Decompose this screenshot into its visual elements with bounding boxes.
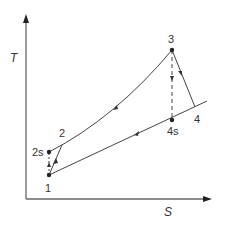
process-1-2s-arrow-icon	[47, 162, 51, 167]
point-1	[47, 173, 51, 177]
point-2-label: 2	[59, 127, 65, 139]
point-1-label: 1	[45, 182, 51, 194]
point-4-label: 4	[194, 113, 200, 125]
y-axis-label: T	[10, 51, 19, 65]
point-4s	[170, 118, 174, 122]
point-4s-label: 4s	[167, 125, 179, 137]
process-3-4-line	[172, 50, 195, 107]
ts-diagram: T S 1 2s 2 3 4s 4	[0, 0, 226, 229]
x-axis-label: S	[164, 205, 172, 219]
point-3-label: 3	[168, 33, 174, 45]
point-2s-label: 2s	[32, 146, 44, 158]
y-axis-arrow-icon	[23, 14, 29, 23]
point-2s	[47, 150, 51, 154]
process-2-3-curve	[49, 50, 172, 152]
process-3-4-arrow-icon	[178, 71, 182, 76]
point-3	[170, 48, 174, 52]
process-3-4s-arrow-icon	[170, 76, 174, 81]
x-axis-arrow-icon	[203, 196, 212, 202]
